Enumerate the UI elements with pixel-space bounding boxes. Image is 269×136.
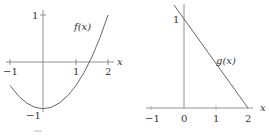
curve-label-f: f(x)	[73, 21, 91, 32]
x-axis-label: x	[260, 102, 266, 113]
tick-x-1: 1	[213, 113, 219, 124]
tick-x-neg1: −1	[3, 66, 18, 77]
tick-x-1: 1	[73, 66, 79, 77]
x-axis-label: x	[117, 56, 123, 67]
clipped-caption	[34, 130, 42, 132]
tick-y-1: 1	[173, 14, 179, 25]
tick-x-2: 2	[245, 113, 251, 124]
tick-x-2: 2	[105, 66, 111, 77]
line-g	[174, 5, 248, 108]
curve-label-g: g(x)	[216, 55, 236, 66]
tick-y-neg1: −1	[26, 110, 41, 121]
figure: f(x) x −1 1 2 1 −1 g(x) x −1 0 1 2 1	[0, 0, 269, 136]
plot-g: g(x) x −1 0 1 2 1	[145, 4, 266, 124]
tick-x-0: 0	[181, 113, 187, 124]
plot-f: f(x) x −1 1 2 1 −1	[3, 10, 123, 132]
tick-x-neg1: −1	[145, 113, 160, 124]
tick-y-1: 1	[32, 10, 38, 21]
